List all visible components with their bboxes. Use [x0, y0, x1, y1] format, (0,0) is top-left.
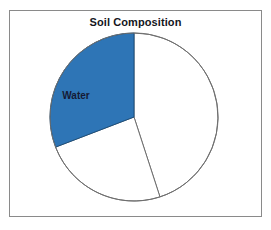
pie-label-group: Water: [62, 90, 90, 101]
pie-slice-label: Water: [62, 90, 90, 101]
pie-slice-group: [50, 33, 218, 201]
chart-frame: Soil Composition Water: [9, 10, 262, 217]
pie-chart: Water: [10, 11, 263, 218]
